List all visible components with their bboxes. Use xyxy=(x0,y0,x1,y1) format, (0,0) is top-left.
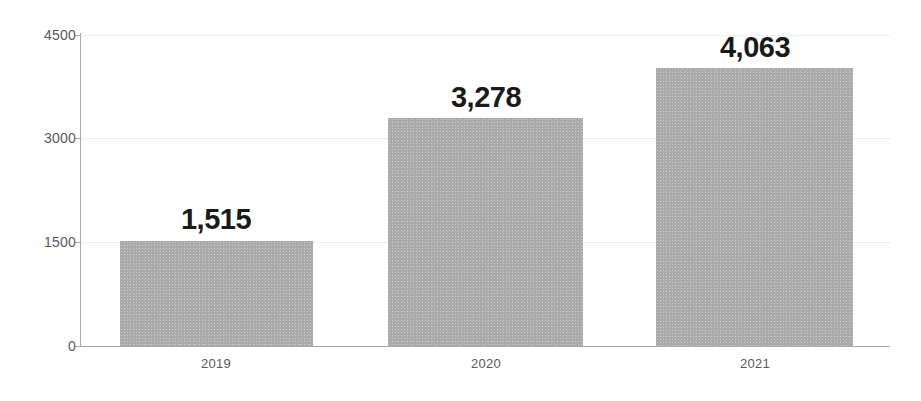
bar-2019[interactable] xyxy=(120,241,313,346)
x-tick-label-2019: 2019 xyxy=(201,357,231,370)
value-label-2021: 4,063 xyxy=(720,33,790,62)
bar-2021[interactable] xyxy=(656,68,853,346)
bar-2020[interactable] xyxy=(388,118,583,346)
x-tick-label-2021: 2021 xyxy=(740,357,770,370)
bar-chart: 4500 3000 1500 0 1,515 3,278 4,063 2019 … xyxy=(0,0,921,401)
value-label-2020: 3,278 xyxy=(451,83,521,112)
value-label-2019: 1,515 xyxy=(181,205,251,234)
x-tick-label-2020: 2020 xyxy=(471,357,501,370)
x-axis-line xyxy=(80,346,890,347)
